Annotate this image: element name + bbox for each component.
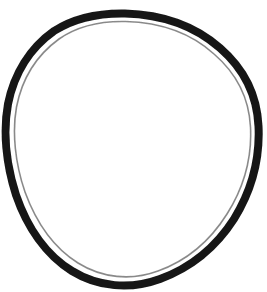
product-photo-canvas: Black rubber o-ring belt on a plain whit… bbox=[0, 0, 267, 292]
o-ring-illustration: Black rubber o-ring belt on a plain whit… bbox=[0, 0, 267, 292]
